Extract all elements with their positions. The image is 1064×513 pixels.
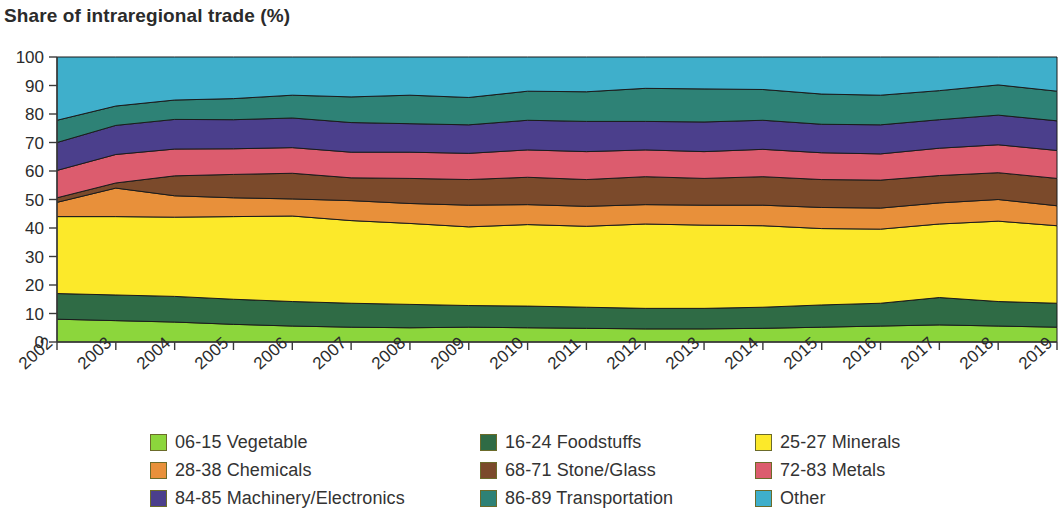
chart-title: Share of intraregional trade (%)	[4, 5, 290, 27]
legend-color-swatch	[150, 462, 167, 479]
area-series-group	[57, 57, 1057, 342]
legend-color-swatch	[480, 490, 497, 507]
legend-item-label: 86-89 Transportation	[505, 488, 673, 509]
y-axis-tick-label: 90	[25, 77, 44, 96]
y-axis-tick-label: 20	[25, 276, 44, 295]
legend-item-label: 28-38 Chemicals	[175, 460, 312, 481]
legend-item[interactable]: Other	[755, 488, 1064, 509]
y-axis-tick-label: 10	[25, 305, 44, 324]
plot-area: 1009080706050403020100	[0, 45, 1064, 355]
y-axis-tick-label: 30	[25, 248, 44, 267]
legend-item-label: 84-85 Machinery/Electronics	[175, 488, 405, 509]
y-axis-tick-label: 70	[25, 134, 44, 153]
legend-item[interactable]: 84-85 Machinery/Electronics	[150, 488, 480, 509]
legend-color-swatch	[150, 490, 167, 507]
legend-item[interactable]: 16-24 Foodstuffs	[480, 432, 755, 453]
legend-item[interactable]: 25-27 Minerals	[755, 432, 1064, 453]
legend-item-label: 72-83 Metals	[780, 460, 885, 481]
legend-color-swatch	[755, 462, 772, 479]
legend-color-swatch	[755, 434, 772, 451]
chart-page: Share of intraregional trade (%) 1009080…	[0, 0, 1064, 513]
y-axis-tick-label: 40	[25, 219, 44, 238]
legend-color-swatch	[480, 462, 497, 479]
legend-item-label: Other	[780, 488, 826, 509]
y-axis-tick-label: 80	[25, 105, 44, 124]
legend-item[interactable]: 06-15 Vegetable	[150, 432, 480, 453]
legend-color-swatch	[150, 434, 167, 451]
legend-item-label: 06-15 Vegetable	[175, 432, 308, 453]
legend-item-label: 68-71 Stone/Glass	[505, 460, 656, 481]
legend-item[interactable]: 72-83 Metals	[755, 460, 1064, 481]
area-series	[57, 216, 1057, 308]
legend-item[interactable]: 28-38 Chemicals	[150, 460, 480, 481]
legend-color-swatch	[480, 434, 497, 451]
legend-item[interactable]: 68-71 Stone/Glass	[480, 460, 755, 481]
legend-item-label: 25-27 Minerals	[780, 432, 900, 453]
legend-item-label: 16-24 Foodstuffs	[505, 432, 641, 453]
legend-color-swatch	[755, 490, 772, 507]
y-axis-tick-label: 100	[16, 48, 44, 67]
stacked-area-chart: 1009080706050403020100	[0, 45, 1064, 355]
chart-legend: 06-15 Vegetable16-24 Foodstuffs25-27 Min…	[150, 428, 1064, 513]
x-axis-tick-labels: 2002200320042005200620072008200920102011…	[0, 345, 1064, 420]
legend-item[interactable]: 86-89 Transportation	[480, 488, 755, 509]
y-axis-tick-label: 50	[25, 191, 44, 210]
y-axis-tick-label: 60	[25, 162, 44, 181]
